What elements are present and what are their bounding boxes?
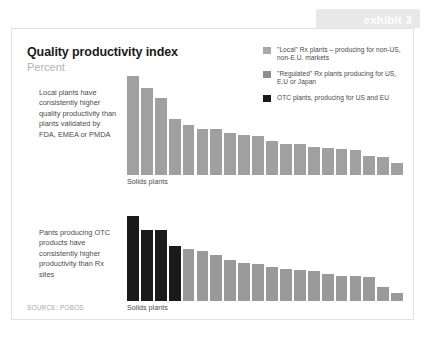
exhibit-tab-label: exhibit 3 <box>364 14 412 27</box>
legend-item-label: "Local" Rx plants – producing for non-US… <box>277 46 407 63</box>
bar <box>210 129 222 175</box>
exhibit-tab: exhibit 3 <box>316 9 420 28</box>
page-title: Quality productivity index <box>27 45 178 59</box>
bar-chart-solids-plants-rx: Solids plants <box>127 76 403 187</box>
bar <box>377 157 389 175</box>
bar <box>155 230 167 301</box>
bar <box>336 276 348 302</box>
legend-swatch-local <box>263 47 271 54</box>
bar <box>210 255 222 301</box>
bar <box>224 133 236 175</box>
bar <box>252 136 264 175</box>
exhibit-card: Quality productivity index Percent "Loca… <box>11 28 414 320</box>
bar <box>141 88 153 175</box>
bar <box>238 263 250 301</box>
x-axis-label: Solids plants <box>127 303 168 313</box>
bar <box>350 276 362 301</box>
page-subtitle: Percent <box>27 61 65 73</box>
bar <box>308 147 320 175</box>
legend-item: "Local" Rx plants – producing for non-US… <box>263 46 407 63</box>
bar <box>127 216 139 301</box>
bar <box>127 76 139 175</box>
bar <box>197 129 209 175</box>
bar <box>391 163 403 175</box>
bar <box>169 246 181 301</box>
bar <box>322 148 334 175</box>
bar <box>391 293 403 302</box>
bar <box>141 230 153 301</box>
bar <box>308 271 320 301</box>
bar <box>169 119 181 175</box>
bar-chart-solids-plants-otc: Solids plants <box>127 216 403 313</box>
bar <box>280 144 292 175</box>
bar <box>322 274 334 301</box>
source-note: SOURCE: POBOS <box>27 304 84 311</box>
exhibit-page: exhibit 3 Quality productivity index Per… <box>0 0 428 338</box>
bar <box>183 249 195 301</box>
bar <box>363 277 375 301</box>
bar <box>350 150 362 175</box>
bar <box>266 267 278 301</box>
x-axis-label: Solids plants <box>127 177 168 187</box>
bar <box>336 149 348 175</box>
bar <box>266 141 278 175</box>
bar <box>224 260 236 301</box>
bar <box>238 135 250 175</box>
bar <box>155 98 167 175</box>
bar-series <box>127 216 403 301</box>
bar <box>363 156 375 175</box>
bar <box>280 269 292 301</box>
annotation-local-plants: Local plants have consistently higher qu… <box>39 88 117 140</box>
bar <box>294 270 306 301</box>
bar <box>377 287 389 301</box>
bar <box>183 125 195 175</box>
bar-series <box>127 76 403 175</box>
bar <box>252 264 264 301</box>
annotation-otc-plants: Pants producing OTC products have consis… <box>39 228 117 280</box>
bar <box>294 144 306 175</box>
bar <box>197 251 209 301</box>
